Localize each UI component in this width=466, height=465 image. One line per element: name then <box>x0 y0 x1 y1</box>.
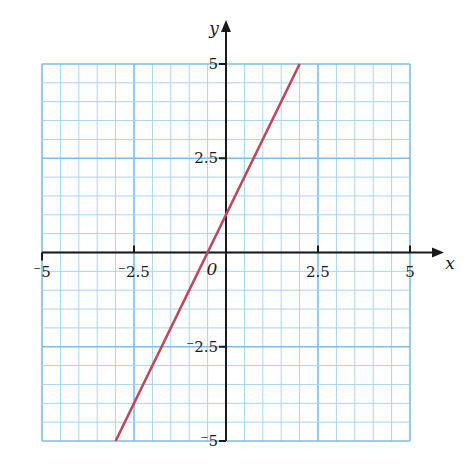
x-tick-label: ⁻5 <box>33 263 50 281</box>
x-axis-label: x <box>445 253 455 273</box>
origin-label: 0 <box>207 259 218 279</box>
y-tick-label: ⁻2.5 <box>186 338 218 356</box>
x-axis-arrow-icon <box>432 248 444 258</box>
x-tick-label: 2.5 <box>306 263 330 281</box>
y-tick-label: 2.5 <box>194 149 218 167</box>
x-tick-label: ⁻2.5 <box>118 263 150 281</box>
x-tick-label: 5 <box>405 263 415 281</box>
y-tick-label: ⁻5 <box>201 432 218 450</box>
y-tick-label: 5 <box>208 55 218 73</box>
y-axis-arrow-icon <box>221 20 231 32</box>
line-chart: ⁻5⁻2.52.55⁻5⁻2.52.550xy <box>0 0 466 465</box>
y-axis-label: y <box>208 18 219 38</box>
